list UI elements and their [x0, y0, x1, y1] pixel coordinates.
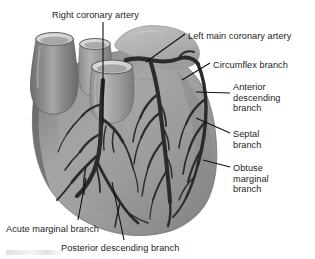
label-left-main-coronary-artery: Left main coronary artery: [188, 31, 291, 42]
label-posterior-descending-branch: Posterior descending branch: [61, 243, 179, 254]
pulmonary-artery: [90, 60, 134, 123]
label-anterior-descending-branch: Anterior descending branch: [233, 82, 281, 114]
label-acute-marginal-branch: Acute marginal branch: [6, 224, 99, 235]
label-septal-branch: Septal branch: [233, 129, 261, 150]
scan-artifact: [6, 250, 64, 255]
aorta: [30, 33, 78, 115]
left-main-coronary-artery-vessel: [126, 59, 150, 61]
label-obtuse-marginal-branch: Obtuse marginal branch: [233, 163, 269, 195]
figure-canvas: Right coronary artery Left main coronary…: [0, 0, 315, 259]
label-circumflex-branch: Circumflex branch: [213, 60, 288, 71]
label-right-coronary-artery: Right coronary artery: [52, 10, 139, 21]
